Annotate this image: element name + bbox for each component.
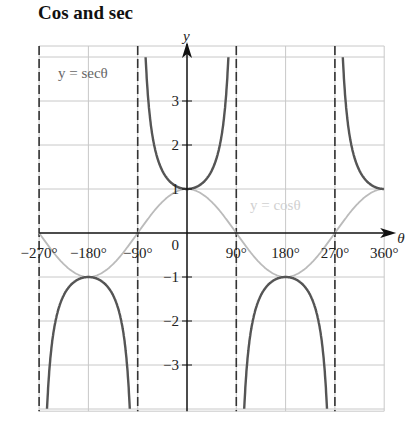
x-tick-label: −180° <box>70 245 107 261</box>
sec-curve-label: y = secθ <box>58 65 108 81</box>
y-tick-label: 2 <box>172 137 180 153</box>
y-tick-label: −3 <box>163 357 179 373</box>
y-tick-label: −2 <box>163 313 179 329</box>
x-tick-label: 360° <box>370 245 399 261</box>
sec-curve <box>343 57 384 189</box>
y-tick-label: −1 <box>163 269 179 285</box>
cos-curve-label: y = cosθ <box>250 197 301 213</box>
y-axis-label: y <box>181 28 190 44</box>
x-tick-label: −270° <box>21 245 58 261</box>
chart: 321−1−2−3−270°−180°−90°90°180°270°360°0θ… <box>0 0 411 427</box>
x-axis-label: θ <box>397 230 405 246</box>
origin-label: 0 <box>172 237 180 253</box>
x-tick-label: −90° <box>123 245 152 261</box>
x-tick-label: 270° <box>321 245 350 261</box>
y-tick-label: 1 <box>172 181 180 197</box>
x-tick-label: 90° <box>226 245 247 261</box>
x-tick-label: 180° <box>271 245 300 261</box>
y-tick-label: 3 <box>172 93 180 109</box>
